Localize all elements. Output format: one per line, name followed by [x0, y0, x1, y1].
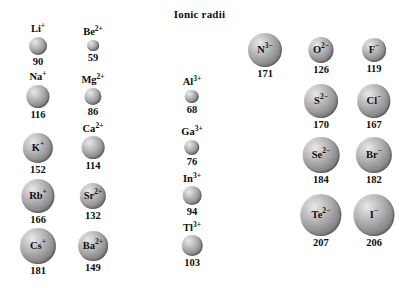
ion-symbol-label: In3+	[183, 174, 202, 185]
ion-sphere-wrap	[29, 37, 47, 55]
ion-entry-cl: Cl−167	[357, 84, 390, 130]
ion-radius-value: 126	[308, 65, 333, 76]
ion-entry-ca2: Ca2+114	[82, 124, 105, 172]
ion-sphere	[26, 85, 49, 108]
ion-radius-value: 149	[78, 263, 108, 274]
ion-sphere	[182, 235, 203, 256]
ion-sphere-wrap: N3−	[248, 33, 282, 67]
ion-sphere	[353, 194, 394, 235]
ion-sphere	[300, 194, 341, 235]
ion-sphere	[304, 84, 338, 118]
ion-radius-value: 76	[181, 157, 203, 168]
ion-entry-sr2: Sr2+132	[80, 183, 106, 222]
ion-radius-value: 103	[182, 258, 203, 269]
ion-sphere	[20, 228, 56, 264]
ion-sphere	[303, 137, 340, 174]
ion-radius-value: 68	[183, 105, 202, 116]
ion-entry-al3: Al3+68	[183, 77, 202, 116]
ion-sphere-wrap: Ba2+	[78, 231, 108, 261]
ion-radius-value: 182	[356, 175, 392, 186]
ion-sphere-wrap: Rb+	[21, 179, 54, 212]
ionic-radii-figure: Ionic radii Li+90Na+116K+152Rb+166Cs+181…	[0, 0, 399, 288]
ion-sphere-wrap: S2−	[304, 84, 338, 118]
ion-sphere	[87, 40, 99, 52]
ion-sphere	[184, 140, 199, 155]
ion-radius-value: 116	[26, 110, 49, 121]
ion-sphere	[308, 37, 333, 62]
ion-sphere-wrap	[184, 140, 199, 155]
ion-radius-value: 167	[357, 120, 390, 131]
ion-entry-rb: Rb+166	[21, 179, 54, 225]
ion-entry-na: Na+116	[26, 72, 49, 120]
ion-entry-s2: S2−170	[304, 84, 338, 131]
ion-entry-in3: In3+94	[183, 174, 202, 218]
ion-sphere	[183, 186, 202, 205]
ion-sphere	[29, 37, 47, 55]
ion-sphere-wrap	[87, 40, 99, 52]
ion-entry-k: K+152	[23, 133, 53, 176]
ion-radius-value: 86	[81, 107, 104, 118]
ion-sphere	[80, 183, 106, 209]
ion-radius-value: 90	[29, 57, 47, 68]
ion-sphere-wrap	[183, 186, 202, 205]
ion-entry-i: I−206	[353, 194, 394, 248]
ion-radius-value: 59	[83, 53, 103, 64]
ion-sphere-wrap: K+	[23, 133, 53, 163]
ion-symbol-label: Tl3+	[182, 223, 203, 234]
ion-symbol-label: Al3+	[183, 77, 202, 88]
ion-sphere-wrap	[182, 235, 203, 256]
ion-sphere-wrap: Cl−	[357, 84, 390, 117]
ion-radius-value: 166	[21, 215, 54, 226]
ion-entry-li: Li+90	[29, 24, 47, 67]
ion-entry-te2: Te2−207	[300, 194, 341, 248]
figure-title: Ionic radii	[0, 8, 399, 20]
ion-symbol-label: Mg2+	[81, 75, 104, 86]
ion-entry-ba2: Ba2+149	[78, 231, 108, 273]
ion-sphere-wrap: I−	[353, 194, 394, 235]
ion-entry-n3: N3−171	[248, 33, 282, 80]
ion-sphere	[82, 136, 105, 159]
ion-radius-value: 170	[304, 120, 338, 131]
ion-radius-value: 119	[362, 64, 386, 75]
ion-entry-cs: Cs+181	[20, 228, 56, 277]
ion-sphere-wrap: Te2−	[300, 194, 341, 235]
ion-sphere-wrap	[185, 90, 199, 104]
ion-sphere-wrap: O2−	[308, 37, 333, 62]
ion-symbol-label: Ga3+	[181, 127, 203, 138]
ion-sphere	[248, 33, 282, 67]
ion-sphere-wrap	[84, 88, 101, 105]
ion-symbol-label: Li+	[29, 24, 47, 35]
ion-entry-se2: Se2−184	[303, 137, 340, 186]
ion-entry-mg2: Mg2+86	[81, 75, 104, 117]
ion-radius-value: 152	[23, 165, 53, 176]
ion-sphere	[23, 133, 53, 163]
ion-radius-value: 171	[248, 69, 282, 80]
ion-sphere	[185, 90, 199, 104]
ion-sphere	[84, 88, 101, 105]
ion-radius-value: 181	[20, 266, 56, 277]
ion-entry-o2: O2−126	[308, 37, 333, 75]
ion-sphere-wrap: Cs+	[20, 228, 56, 264]
ion-radius-value: 132	[80, 211, 106, 222]
ion-sphere	[21, 179, 54, 212]
ion-entry-f: F−119	[362, 38, 386, 74]
ion-entry-br: Br−182	[356, 137, 392, 186]
ion-radius-value: 184	[303, 175, 340, 186]
ion-sphere-wrap	[82, 136, 105, 159]
ion-entry-ga3: Ga3+76	[181, 127, 203, 167]
ion-radius-value: 94	[183, 207, 202, 218]
ion-sphere	[362, 38, 386, 62]
ion-sphere-wrap	[26, 85, 49, 108]
ion-sphere	[357, 84, 390, 117]
ion-radius-value: 114	[82, 161, 105, 172]
ion-sphere	[78, 231, 108, 261]
ion-sphere	[356, 137, 392, 173]
ion-sphere-wrap: Se2−	[303, 137, 340, 174]
ion-radius-value: 206	[353, 238, 394, 249]
ion-entry-tl3: Tl3+103	[182, 223, 203, 269]
ion-sphere-wrap: Sr2+	[80, 183, 106, 209]
ion-symbol-label: Na+	[26, 72, 49, 83]
ion-symbol-label: Ca2+	[82, 124, 105, 135]
ion-entry-be2: Be2+59	[83, 27, 103, 64]
ion-sphere-wrap: Br−	[356, 137, 392, 173]
